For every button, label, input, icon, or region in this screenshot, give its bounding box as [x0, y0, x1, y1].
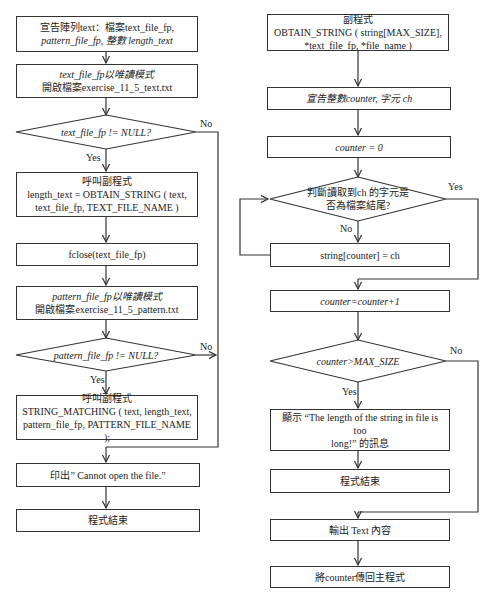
sub-header-line-2: OBTAIN_STRING ( string[MAX_SIZE], [274, 26, 442, 39]
yes-label-1: Yes [86, 152, 101, 163]
fclose-box: fclose(text_file_fp) [16, 243, 198, 266]
sub-header-line-3: *text_file_fp, *file_name ) [274, 39, 442, 52]
no-label-2: No [200, 341, 212, 352]
no-label-1: No [200, 118, 212, 129]
print-error-box: 印出” Cannot open the file.” [16, 463, 200, 487]
declare-line-2: pattern_file_fp, 整數 length_text [40, 34, 174, 47]
open-text-line-2: 開啟檔案exercise_11_5_text.txt [42, 81, 172, 94]
output-text-box: 輸出 Text 內容 [270, 519, 450, 541]
open-text-line-1: text_file_fp以唯讀模式 [42, 68, 172, 81]
declare-counter-box: 宣告整數counter, 字元 ch [267, 87, 451, 110]
call-obtain-line-2: length_text = OBTAIN_STRING ( text, [27, 188, 187, 201]
check-text-file-decision: text_file_fp != NULL? [40, 124, 172, 140]
call-obtain-string-box: 呼叫副程式 length_text = OBTAIN_STRING ( text… [16, 172, 198, 217]
open-pattern-line-2: 開啟檔案exercise_11_5_pattern.txt [35, 303, 178, 316]
return-counter-box: 將counter傳回主程式 [270, 566, 450, 588]
call-matching-line-3: pattern_file_fp, PATTERN_FILE_NAME ); [21, 418, 193, 444]
no-label-3: No [340, 223, 352, 234]
open-text-file-box: text_file_fp以唯讀模式 開啟檔案exercise_11_5_text… [16, 64, 198, 98]
check-size-decision: counter>MAX_SIZE [300, 353, 416, 369]
yes-label-2: Yes [90, 374, 105, 385]
check-eof-decision: 判斷讀取到ch 的字元是 否為檔案結尾? [300, 185, 416, 213]
open-pattern-file-box: pattern_file_fp以唯讀模式 開啟檔案exercise_11_5_p… [16, 286, 198, 320]
no-label-4: No [450, 345, 462, 356]
yes-label-4: Yes [342, 386, 357, 397]
declare-variables-box: 宣告陣列text：檔案text_file_fp, pattern_file_fp… [16, 16, 198, 52]
call-matching-line-1: 呼叫副程式 [21, 392, 193, 405]
show-message-box: 顯示 “The length of the string in file is … [270, 409, 450, 451]
check-pattern-file-decision: pattern_file_fp != NULL? [36, 347, 176, 363]
show-msg-line-1: 顯示 “The length of the string in file is … [275, 411, 445, 437]
sub-header-line-1: 副程式 [274, 13, 442, 26]
call-string-matching-box: 呼叫副程式 STRING_MATCHING ( text, length_tex… [16, 395, 198, 440]
yes-label-3: Yes [448, 181, 463, 192]
call-matching-line-2: STRING_MATCHING ( text, length_text, [21, 405, 193, 418]
open-pattern-line-1: pattern_file_fp以唯讀模式 [35, 290, 178, 303]
show-msg-line-2: long!” 的訊息 [275, 437, 445, 450]
call-obtain-line-1: 呼叫副程式 [27, 175, 187, 188]
assign-string-box: string[counter] = ch [270, 243, 450, 267]
check-eof-line-1: 判斷讀取到ch 的字元是 [307, 186, 409, 199]
subroutine-header-box: 副程式 OBTAIN_STRING ( string[MAX_SIZE], *t… [267, 14, 449, 51]
increment-counter-box: counter=counter+1 [270, 290, 450, 312]
declare-line-1: 宣告陣列text：檔案text_file_fp, [40, 21, 174, 34]
sub-end-box: 程式結束 [270, 469, 450, 493]
call-obtain-line-3: text_file_fp, TEXT_FILE_NAME ) [27, 201, 187, 214]
counter-init-box: counter = 0 [267, 136, 451, 158]
main-end-box: 程式結束 [16, 509, 200, 532]
check-eof-line-2: 否為檔案結尾? [307, 199, 409, 212]
